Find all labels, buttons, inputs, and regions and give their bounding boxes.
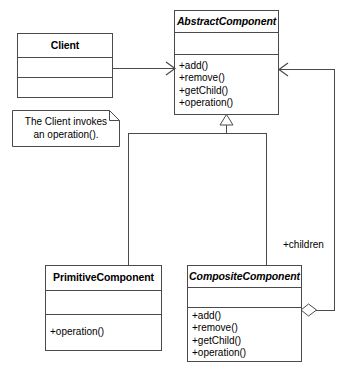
note-text: The Client invokes an operation(). — [12, 110, 120, 147]
aggregation-line-right-vertical — [334, 69, 335, 311]
aggregation-arrowhead-abstract — [277, 62, 289, 77]
operation-item: +getChild() — [179, 85, 278, 97]
class-box-primitive-component[interactable]: PrimitiveComponent +operation() — [45, 265, 162, 351]
client-attributes-compartment — [18, 57, 112, 77]
class-box-abstract-component[interactable]: AbstractComponent +add() +remove() +getC… — [174, 10, 279, 115]
operation-item: +remove() — [192, 322, 301, 334]
client-operations-compartment — [18, 77, 112, 97]
primitive-component-class-name: PrimitiveComponent — [46, 272, 161, 284]
primitive-component-attributes-compartment — [46, 290, 161, 314]
abstract-component-operations-compartment: +add() +remove() +getChild() +operation(… — [175, 54, 278, 114]
association-arrowhead-client — [165, 61, 177, 76]
composite-component-operations-compartment: +add() +remove() +getChild() +operation(… — [188, 307, 301, 361]
aggregation-label-children: +children — [283, 239, 324, 250]
operation-item: +operation() — [192, 347, 301, 359]
aggregation-line-bottom — [316, 310, 334, 311]
client-name-compartment: Client — [18, 34, 112, 57]
note-client-invokes: The Client invokes an operation(). — [12, 110, 120, 147]
composite-component-class-name: CompositeComponent — [188, 271, 301, 283]
operation-item: +getChild() — [192, 335, 301, 347]
generalization-branch-primitive — [128, 133, 129, 265]
operation-item: +remove() — [179, 72, 278, 84]
composite-component-name-compartment: CompositeComponent — [188, 266, 301, 287]
operation-item: +operation() — [50, 326, 161, 338]
note-line-2: an operation(). — [33, 129, 98, 142]
note-line-1: The Client invokes — [25, 116, 107, 129]
operation-item: +add() — [179, 60, 278, 72]
class-box-client[interactable]: Client — [17, 33, 113, 98]
abstract-component-class-name: AbstractComponent — [175, 16, 278, 28]
primitive-component-operations-compartment: +operation() — [46, 314, 161, 350]
generalization-branch-composite — [266, 133, 267, 265]
class-box-composite-component[interactable]: CompositeComponent +add() +remove() +get… — [187, 265, 302, 362]
abstract-component-attributes-compartment — [175, 32, 278, 54]
primitive-component-name-compartment: PrimitiveComponent — [46, 266, 161, 290]
abstract-component-name-compartment: AbstractComponent — [175, 11, 278, 32]
composite-component-attributes-compartment — [188, 287, 301, 307]
uml-diagram-canvas: Client AbstractComponent +add() +remove(… — [0, 0, 342, 369]
client-class-name: Client — [18, 40, 112, 52]
generalization-fork-horizontal — [128, 133, 267, 134]
operation-item: +operation() — [179, 97, 278, 109]
operation-item: +add() — [192, 310, 301, 322]
